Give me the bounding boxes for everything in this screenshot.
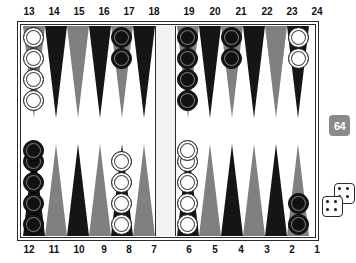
checker-white-p8-3[interactable]: [111, 172, 132, 193]
point-18[interactable]: [133, 26, 155, 118]
point-3-triangle-icon: [243, 144, 265, 236]
checker-white-p8-4[interactable]: [111, 151, 132, 172]
backgammon-screenshot: 13 14 15 16 17 18 19 20 21 22 23 24: [0, 0, 356, 263]
board-bar[interactable]: [155, 26, 176, 236]
point-20-triangle-icon: [199, 26, 221, 118]
top-point-labels: 13 14 15 16 17 18 19 20 21 22 23 24: [18, 5, 318, 19]
point-label-20: 20: [204, 5, 226, 19]
point-label-19: 19: [178, 5, 200, 19]
point-label-3: 3: [256, 243, 278, 257]
point-23[interactable]: [265, 26, 287, 118]
point-23-triangle-icon: [265, 26, 287, 118]
checker-black-p19-2[interactable]: [177, 48, 198, 69]
point-label-22: 22: [256, 5, 278, 19]
point-11-triangle-icon: [45, 144, 67, 236]
point-7-triangle-icon: [133, 144, 155, 236]
checker-white-p6-1[interactable]: [177, 214, 198, 235]
point-label-11: 11: [43, 243, 65, 257]
point-label-14: 14: [43, 5, 65, 19]
checker-black-p12-2[interactable]: [23, 193, 44, 214]
checker-black-p17-1[interactable]: [111, 27, 132, 48]
point-label-2: 2: [281, 243, 303, 257]
point-11[interactable]: [45, 144, 67, 236]
point-14[interactable]: [45, 26, 67, 118]
point-label-21: 21: [230, 5, 252, 19]
point-15-triangle-icon: [67, 26, 89, 118]
point-label-23: 23: [281, 5, 303, 19]
point-4[interactable]: [221, 144, 243, 236]
point-7[interactable]: [133, 144, 155, 236]
checker-black-p21-1[interactable]: [221, 27, 242, 48]
point-18-triangle-icon: [133, 26, 155, 118]
point-label-6: 6: [178, 243, 200, 257]
checker-black-p21-2[interactable]: [221, 48, 242, 69]
point-22-triangle-icon: [243, 26, 265, 118]
checker-black-p17-2[interactable]: [111, 48, 132, 69]
checker-white-p6-2[interactable]: [177, 193, 198, 214]
checker-white-p13-2[interactable]: [23, 48, 44, 69]
checker-black-p12-5[interactable]: [23, 140, 44, 161]
die-upper-pip-2: [346, 187, 349, 190]
point-2[interactable]: [265, 144, 287, 236]
point-9-triangle-icon: [89, 144, 111, 236]
checker-white-p6-3[interactable]: [177, 172, 198, 193]
checker-black-p19-3[interactable]: [177, 69, 198, 90]
point-2-triangle-icon: [265, 144, 287, 236]
point-4-triangle-icon: [221, 144, 243, 236]
point-14-triangle-icon: [45, 26, 67, 118]
checker-white-p8-2[interactable]: [111, 193, 132, 214]
point-label-1: 1: [306, 243, 328, 257]
point-label-24: 24: [306, 5, 328, 19]
checker-black-p1-1[interactable]: [288, 214, 309, 235]
checker-white-p13-1[interactable]: [23, 27, 44, 48]
point-label-4: 4: [230, 243, 252, 257]
doubling-cube-value: 64: [334, 120, 345, 132]
point-label-7: 7: [143, 243, 165, 257]
point-label-15: 15: [68, 5, 90, 19]
point-label-13: 13: [18, 5, 40, 19]
doubling-cube[interactable]: 64: [329, 115, 350, 136]
point-10[interactable]: [67, 144, 89, 236]
point-3[interactable]: [243, 144, 265, 236]
point-20[interactable]: [199, 26, 221, 118]
checker-white-p13-4[interactable]: [23, 90, 44, 111]
die-lower-pip-3: [326, 208, 329, 211]
die-lower-pip-2: [334, 200, 337, 203]
checker-white-p24-2[interactable]: [288, 48, 309, 69]
point-label-9: 9: [93, 243, 115, 257]
point-label-18: 18: [143, 5, 165, 19]
point-label-10: 10: [68, 243, 90, 257]
die-upper-pip-1: [338, 187, 341, 190]
point-16[interactable]: [89, 26, 111, 118]
checker-black-p19-4[interactable]: [177, 90, 198, 111]
point-label-12: 12: [18, 243, 40, 257]
checker-black-p1-2[interactable]: [288, 193, 309, 214]
bottom-point-labels: 12 11 10 9 8 7 6 5 4 3 2 1: [18, 243, 318, 257]
checker-white-p13-3[interactable]: [23, 69, 44, 90]
point-16-triangle-icon: [89, 26, 111, 118]
point-label-5: 5: [204, 243, 226, 257]
point-9[interactable]: [89, 144, 111, 236]
point-label-17: 17: [118, 5, 140, 19]
point-10-triangle-icon: [67, 144, 89, 236]
point-15[interactable]: [67, 26, 89, 118]
checker-white-p6-5[interactable]: [177, 140, 198, 161]
point-22[interactable]: [243, 26, 265, 118]
checker-black-p12-3[interactable]: [23, 172, 44, 193]
point-5[interactable]: [199, 144, 221, 236]
die-lower-pip-1: [326, 200, 329, 203]
point-5-triangle-icon: [199, 144, 221, 236]
checker-white-p8-1[interactable]: [111, 214, 132, 235]
checker-black-p19-1[interactable]: [177, 27, 198, 48]
die-upper-pip-4: [346, 195, 349, 198]
checker-black-p12-1[interactable]: [23, 214, 44, 235]
point-label-8: 8: [118, 243, 140, 257]
die-lower[interactable]: [322, 196, 343, 217]
point-label-16: 16: [93, 5, 115, 19]
die-lower-pip-4: [334, 208, 337, 211]
checker-white-p24-1[interactable]: [288, 27, 309, 48]
